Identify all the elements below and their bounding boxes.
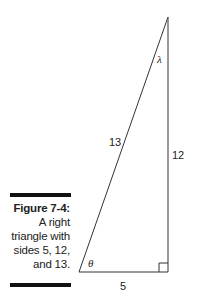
right-triangle-diagram: λ 13 12 θ 5 (0, 0, 203, 304)
right-angle-marker (159, 263, 168, 272)
base-label: 5 (120, 280, 126, 292)
hypotenuse-line (79, 17, 168, 272)
hypotenuse-label: 13 (109, 136, 121, 148)
angle-lambda-label: λ (156, 53, 162, 65)
angle-theta-label: θ (88, 257, 94, 269)
vertical-side-label: 12 (172, 149, 184, 161)
